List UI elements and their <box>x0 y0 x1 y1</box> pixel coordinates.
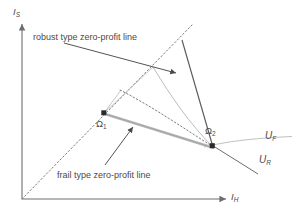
y-axis-label: IS <box>13 7 20 18</box>
u-f-label: UF <box>265 131 276 142</box>
figure-container: IS IH robust type zero-profit line frail… <box>0 0 299 209</box>
frail-zero-profit-line-label: frail type zero-profit line <box>57 171 151 180</box>
omega-1-marker <box>101 110 106 115</box>
x-axis-label: IH <box>231 192 238 203</box>
omega-2-label: Ω2 <box>205 126 216 137</box>
omega1-upper-chord <box>104 90 121 113</box>
omega-2-marker <box>210 143 215 148</box>
robust-zero-profit-line-label: robust type zero-profit line <box>33 33 137 42</box>
inner-faint-curve <box>153 67 212 146</box>
inner-dotted-chord <box>120 90 212 146</box>
u-r-label: UR <box>259 155 271 166</box>
omega1-to-intersection-chord <box>104 67 153 113</box>
u-f-curve <box>204 137 292 148</box>
u-r-curve <box>213 146 259 175</box>
omega-1-label: Ω1 <box>96 119 107 130</box>
frail-label-leader <box>105 127 133 165</box>
